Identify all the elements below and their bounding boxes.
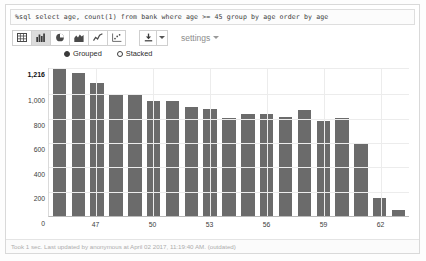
gridline — [49, 94, 409, 95]
bar[interactable] — [184, 106, 199, 216]
paragraph-container: %sql select age, count(1) from bank wher… — [5, 4, 420, 254]
x-axis-tick — [333, 219, 352, 233]
pie-chart-button[interactable] — [50, 30, 69, 46]
bar[interactable] — [108, 93, 123, 216]
bar[interactable] — [391, 209, 406, 216]
x-axis-tick: 53 — [200, 219, 219, 233]
query-text[interactable]: %sql select age, count(1) from bank wher… — [11, 13, 328, 21]
scatter-chart-icon — [112, 33, 122, 42]
x-axis: 475053565962 — [48, 219, 409, 233]
plot-area — [48, 68, 409, 217]
x-axis-tick — [352, 219, 371, 233]
bar[interactable] — [278, 116, 293, 216]
bar[interactable] — [297, 109, 312, 216]
download-icon — [144, 33, 153, 42]
x-axis-tick: 59 — [314, 219, 333, 233]
download-button[interactable] — [139, 30, 156, 46]
vertical-gridline — [267, 68, 268, 216]
gridline — [49, 192, 409, 193]
zeppelin-notebook-paragraph: %sql select age, count(1) from bank wher… — [0, 0, 426, 261]
x-axis-tick — [390, 219, 409, 233]
x-axis-tick: 56 — [257, 219, 276, 233]
gridline — [49, 68, 409, 69]
caret-down-icon — [213, 36, 219, 39]
x-axis-tick — [67, 219, 86, 233]
y-axis: 1,2161,0008006004002000 — [10, 68, 45, 217]
bar[interactable] — [353, 142, 368, 216]
bar[interactable] — [240, 113, 255, 216]
table-view-button[interactable] — [12, 30, 31, 46]
x-axis-tick — [219, 219, 238, 233]
vertical-gridline — [381, 68, 382, 216]
gridline — [49, 167, 409, 168]
table-icon — [17, 33, 27, 42]
x-axis-tick: 47 — [86, 219, 105, 233]
x-axis-tick: 50 — [143, 219, 162, 233]
radio-stacked[interactable]: Stacked — [117, 49, 153, 58]
settings-label: settings — [181, 33, 210, 43]
x-axis-tick — [276, 219, 295, 233]
x-axis-tick: 62 — [371, 219, 390, 233]
area-chart-icon — [74, 33, 84, 42]
radio-selected-icon — [64, 51, 70, 57]
y-axis-tick-label: 0 — [41, 220, 45, 227]
settings-dropdown[interactable]: settings — [181, 33, 219, 43]
vertical-gridline — [324, 68, 325, 216]
download-button-group — [139, 30, 168, 46]
radio-grouped[interactable]: Grouped — [64, 49, 102, 58]
chart-type-button-group — [12, 30, 126, 46]
vertical-gridline — [96, 68, 97, 216]
y-axis-tick-label: 1,000 — [28, 97, 45, 104]
x-axis-tick — [162, 219, 181, 233]
y-axis-tick-label: 800 — [34, 121, 45, 128]
query-editor[interactable]: %sql select age, count(1) from bank wher… — [10, 9, 415, 25]
radio-grouped-label: Grouped — [73, 49, 102, 58]
radio-stacked-label: Stacked — [126, 49, 153, 58]
download-dropdown-button[interactable] — [156, 30, 168, 46]
caret-down-icon — [159, 36, 165, 39]
pie-chart-icon — [55, 33, 65, 42]
bar-chart-button[interactable] — [31, 30, 50, 46]
status-text: Took 1 sec. Last updated by anonymous at… — [11, 243, 236, 250]
vertical-gridline — [153, 68, 154, 216]
y-axis-tick-label: 600 — [34, 146, 45, 153]
x-axis-tick — [181, 219, 200, 233]
area-chart-button[interactable] — [69, 30, 88, 46]
x-axis-tick — [124, 219, 143, 233]
radio-unselected-icon — [117, 51, 123, 57]
bar[interactable] — [127, 93, 142, 216]
x-axis-tick — [105, 219, 124, 233]
chart-mode-radio-group: Grouped Stacked — [6, 47, 419, 60]
scatter-chart-button[interactable] — [107, 30, 126, 46]
paragraph-status-bar: Took 1 sec. Last updated by anonymous at… — [6, 239, 419, 253]
y-axis-tick-label: 200 — [34, 195, 45, 202]
y-axis-tick-label: 400 — [34, 170, 45, 177]
x-axis-tick — [48, 219, 67, 233]
result-toolbar: settings — [6, 25, 419, 47]
line-chart-button[interactable] — [88, 30, 107, 46]
x-axis-tick — [238, 219, 257, 233]
y-axis-tick-label: 1,216 — [27, 71, 45, 78]
line-chart-icon — [93, 33, 103, 42]
gridline — [49, 143, 409, 144]
gridline — [49, 119, 409, 120]
bar-chart-icon — [36, 33, 46, 42]
vertical-gridline — [210, 68, 211, 216]
x-axis-tick — [295, 219, 314, 233]
bar-chart: 1,2161,0008006004002000 475053565962 — [10, 62, 413, 239]
